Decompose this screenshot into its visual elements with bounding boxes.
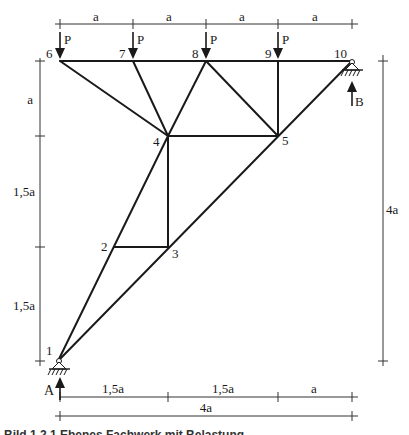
node-label-1: 1 xyxy=(46,343,53,358)
left-dimension: a 1,5a 1,5a xyxy=(13,58,45,366)
reaction-label-a: A xyxy=(44,383,55,398)
node-label-9: 9 xyxy=(265,46,272,61)
dim-label-top-4: a xyxy=(312,9,318,24)
pin-support-icon xyxy=(48,359,70,376)
dim-label-bottom-3: a xyxy=(311,381,317,396)
support-a: A xyxy=(44,359,70,401)
load-label: P xyxy=(137,32,144,47)
load-arrow-icon: P xyxy=(55,32,71,59)
node-label-10: 10 xyxy=(334,46,347,61)
dim-label-left-3: 1,5a xyxy=(13,298,35,313)
dim-label-left-1: a xyxy=(27,92,33,107)
dim-label-bottom-total: 4a xyxy=(200,400,213,415)
dim-label-top-2: a xyxy=(166,9,172,24)
node-label-4: 4 xyxy=(153,134,160,149)
load-arrow-icon: P xyxy=(201,32,217,59)
bottom-dimension-segments: 1,5a 1,5a a xyxy=(60,381,358,402)
node-label-5: 5 xyxy=(282,133,289,148)
member-8-5 xyxy=(206,61,278,136)
support-b: B xyxy=(341,60,364,110)
truss-diagram: a a a a a 1,5a 1,5a 4a 1,5a 1,5a a 4a xyxy=(0,0,409,435)
dim-label-top-1: a xyxy=(93,9,99,24)
top-dimension: a a a a xyxy=(55,9,358,29)
node-label-7: 7 xyxy=(119,46,126,61)
bottom-dimension-total: 4a xyxy=(55,400,358,421)
load-label: P xyxy=(282,32,289,47)
load-arrow-icon: P xyxy=(273,32,289,59)
node-label-2: 2 xyxy=(101,239,108,254)
member-8-4 xyxy=(168,61,206,136)
loads: P P P P xyxy=(55,32,289,59)
figure-caption: Bild 1.2.1 Ebenes Fachwerk mit Belastung xyxy=(4,426,244,435)
load-arrow-icon: P xyxy=(128,32,144,59)
dim-label-right: 4a xyxy=(386,202,399,217)
dim-label-top-3: a xyxy=(239,9,245,24)
member-6-4 xyxy=(60,61,168,136)
load-label: P xyxy=(64,32,71,47)
member-10-1 xyxy=(58,61,352,361)
truss-members xyxy=(58,61,352,361)
node-label-6: 6 xyxy=(46,46,53,61)
dim-label-left-2: 1,5a xyxy=(13,184,35,199)
dim-label-bottom-1: 1,5a xyxy=(102,381,124,396)
member-4-1 xyxy=(58,136,168,361)
node-label-3: 3 xyxy=(172,246,179,261)
load-label: P xyxy=(210,32,217,47)
node-labels: 1 2 3 4 5 6 7 8 9 10 xyxy=(46,46,347,358)
dim-label-bottom-2: 1,5a xyxy=(212,381,234,396)
right-dimension: 4a xyxy=(378,55,399,366)
reaction-label-b: B xyxy=(355,94,364,109)
node-label-8: 8 xyxy=(192,46,199,61)
